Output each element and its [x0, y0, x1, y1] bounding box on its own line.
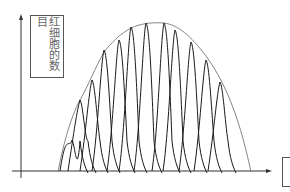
y-axis — [19, 14, 23, 178]
distribution-curve — [134, 23, 162, 173]
distribution-curve — [68, 100, 96, 173]
distribution-curve — [208, 82, 236, 173]
distribution-curve — [152, 23, 180, 173]
distribution-curve — [119, 27, 147, 173]
y-axis-arrow-icon — [19, 14, 23, 20]
distribution-curve — [179, 42, 207, 173]
x-axis-label-box — [282, 157, 290, 187]
distribution-curves — [60, 23, 236, 173]
y-axis-label: 红细胞的数目 — [35, 16, 59, 77]
y-axis-label-box: 红细胞的数目 — [30, 15, 64, 78]
x-axis — [12, 169, 272, 173]
x-axis-arrow-icon — [266, 169, 272, 173]
